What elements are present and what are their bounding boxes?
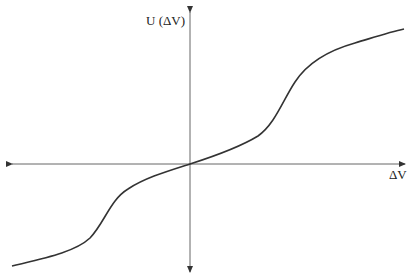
diagram-canvas: U (ΔV) ΔV: [0, 0, 417, 280]
x-axis-label: ΔV: [389, 167, 407, 183]
y-axis-label: U (ΔV): [146, 13, 185, 29]
u-curve: [12, 29, 404, 266]
diagram-svg: [0, 0, 417, 280]
